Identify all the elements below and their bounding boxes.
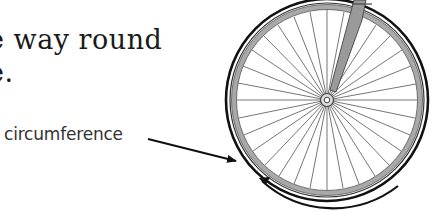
wheel-icon	[226, 0, 428, 201]
hub-icon	[321, 94, 334, 107]
label-pointer-arrow-icon	[148, 139, 236, 161]
bicycle-wheel-diagram	[0, 0, 435, 212]
